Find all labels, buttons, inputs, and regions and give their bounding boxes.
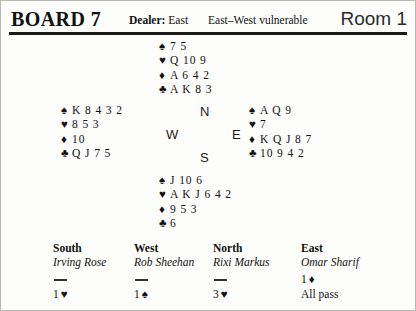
east-clubs: 10 9 4 2 bbox=[260, 147, 305, 159]
bridge-deal-diagram: BOARD 7 Dealer: East East–West vulnerabl… bbox=[0, 0, 416, 311]
west-clubs: Q J 7 5 bbox=[72, 147, 111, 159]
auction-bid: 1♦ bbox=[301, 272, 359, 287]
auction-bid: 3♥ bbox=[213, 287, 270, 302]
diamond-icon: ♦ bbox=[309, 272, 315, 287]
auction-seat-label: South bbox=[53, 241, 106, 255]
compass-rose: N W E S bbox=[166, 105, 244, 167]
auction-bid-list: 1♥ bbox=[53, 272, 106, 302]
auction-bid-placeholder bbox=[53, 272, 106, 287]
south-clubs: 6 bbox=[170, 217, 177, 229]
diamond-icon: ♦ bbox=[159, 68, 170, 82]
east-diamonds-row: ♦K Q J 8 7 bbox=[249, 132, 312, 146]
auction-player-name: Rixi Markus bbox=[213, 255, 270, 270]
hand-south: ♠J 10 6 ♥A K J 6 4 2 ♦9 5 3 ♣6 bbox=[159, 173, 232, 231]
diamond-icon: ♦ bbox=[159, 202, 170, 216]
auction-player-name: Irving Rose bbox=[53, 255, 106, 270]
deal-header: BOARD 7 Dealer: East East–West vulnerabl… bbox=[1, 7, 415, 31]
auction-seat-label: West bbox=[134, 241, 194, 255]
auction-bid: 1♠ bbox=[134, 287, 194, 302]
vulnerability-text: East–West vulnerable bbox=[208, 13, 308, 27]
east-clubs-row: ♣10 9 4 2 bbox=[249, 146, 312, 160]
auction-column-south: South Irving Rose 1♥ bbox=[53, 241, 106, 302]
east-spades: A Q 9 bbox=[260, 104, 292, 116]
north-clubs-row: ♣A K 8 3 bbox=[159, 82, 212, 96]
south-spades: J 10 6 bbox=[170, 174, 203, 186]
diamond-icon: ♦ bbox=[61, 132, 72, 146]
west-spades-row: ♠K 8 4 3 2 bbox=[61, 103, 123, 117]
compass-south-label: S bbox=[200, 151, 209, 165]
west-clubs-row: ♣Q J 7 5 bbox=[61, 146, 123, 160]
hand-east: ♠A Q 9 ♥7 ♦K Q J 8 7 ♣10 9 4 2 bbox=[249, 103, 312, 161]
auction-table: South Irving Rose 1♥ West Rob Sheehan 1♠… bbox=[1, 241, 415, 309]
heart-icon: ♥ bbox=[61, 117, 72, 131]
auction-bid: 1♥ bbox=[53, 287, 106, 302]
auction-column-north: North Rixi Markus 3♥ bbox=[213, 241, 270, 302]
auction-bid-list: 1♠ bbox=[134, 272, 194, 302]
bid-level: 3 bbox=[213, 288, 219, 300]
club-icon: ♣ bbox=[249, 146, 260, 160]
west-hearts-row: ♥8 5 3 bbox=[61, 117, 123, 131]
bid-level: 1 bbox=[53, 288, 59, 300]
south-hearts: A K J 6 4 2 bbox=[170, 188, 232, 200]
hand-diagram: ♠7 5 ♥Q 10 9 ♦A 6 4 2 ♣A K 8 3 ♠K 8 4 3 … bbox=[1, 35, 415, 237]
auction-player-name: Omar Sharif bbox=[301, 255, 359, 270]
auction-seat-label: North bbox=[213, 241, 270, 255]
board-title: BOARD 7 bbox=[11, 8, 101, 30]
north-diamonds-row: ♦A 6 4 2 bbox=[159, 68, 212, 82]
west-spades: K 8 4 3 2 bbox=[72, 104, 123, 116]
auction-bid-placeholder bbox=[134, 272, 194, 287]
diamond-icon: ♦ bbox=[249, 132, 260, 146]
dealer-info: Dealer: East bbox=[129, 13, 188, 27]
north-spades-row: ♠7 5 bbox=[159, 39, 212, 53]
heart-icon: ♥ bbox=[61, 287, 68, 302]
bid-level: 1 bbox=[134, 288, 140, 300]
west-diamonds: 10 bbox=[72, 133, 85, 145]
dealer-label: Dealer: bbox=[129, 14, 165, 26]
hand-north: ♠7 5 ♥Q 10 9 ♦A 6 4 2 ♣A K 8 3 bbox=[159, 39, 212, 97]
club-icon: ♣ bbox=[159, 216, 170, 230]
spade-icon: ♠ bbox=[249, 103, 260, 117]
hand-west: ♠K 8 4 3 2 ♥8 5 3 ♦10 ♣Q J 7 5 bbox=[61, 103, 123, 161]
compass-north-label: N bbox=[200, 105, 209, 119]
auction-all-pass: All pass bbox=[301, 287, 359, 302]
south-spades-row: ♠J 10 6 bbox=[159, 173, 232, 187]
south-hearts-row: ♥A K J 6 4 2 bbox=[159, 187, 232, 201]
heart-icon: ♥ bbox=[159, 53, 170, 67]
east-hearts-row: ♥7 bbox=[249, 117, 312, 131]
spade-icon: ♠ bbox=[142, 287, 148, 302]
dealer-value: East bbox=[168, 14, 188, 26]
club-icon: ♣ bbox=[61, 146, 72, 160]
auction-player-name: Rob Sheehan bbox=[134, 255, 194, 270]
auction-column-east: East Omar Sharif 1♦ All pass bbox=[301, 241, 359, 302]
north-diamonds: A 6 4 2 bbox=[170, 69, 210, 81]
west-diamonds-row: ♦10 bbox=[61, 132, 123, 146]
north-spades: 7 5 bbox=[170, 40, 187, 52]
spade-icon: ♠ bbox=[159, 39, 170, 53]
room-label: Room 1 bbox=[340, 7, 407, 31]
south-clubs-row: ♣6 bbox=[159, 216, 232, 230]
north-clubs: A K 8 3 bbox=[170, 83, 212, 95]
auction-bid-list: 3♥ bbox=[213, 272, 270, 302]
north-hearts: Q 10 9 bbox=[170, 54, 207, 66]
bid-level: 1 bbox=[301, 273, 307, 285]
heart-icon: ♥ bbox=[249, 117, 260, 131]
east-spades-row: ♠A Q 9 bbox=[249, 103, 312, 117]
compass-east-label: E bbox=[232, 128, 241, 142]
auction-column-west: West Rob Sheehan 1♠ bbox=[134, 241, 194, 302]
heart-icon: ♥ bbox=[221, 287, 228, 302]
auction-bid-placeholder bbox=[213, 272, 270, 287]
spade-icon: ♠ bbox=[159, 173, 170, 187]
spade-icon: ♠ bbox=[61, 103, 72, 117]
auction-seat-label: East bbox=[301, 241, 359, 255]
south-diamonds-row: ♦9 5 3 bbox=[159, 202, 232, 216]
east-diamonds: K Q J 8 7 bbox=[260, 133, 312, 145]
compass-west-label: W bbox=[166, 128, 178, 142]
east-hearts: 7 bbox=[260, 118, 267, 130]
club-icon: ♣ bbox=[159, 82, 170, 96]
auction-bid-list: 1♦ All pass bbox=[301, 272, 359, 302]
west-hearts: 8 5 3 bbox=[72, 118, 100, 130]
south-diamonds: 9 5 3 bbox=[170, 203, 198, 215]
north-hearts-row: ♥Q 10 9 bbox=[159, 53, 212, 67]
heart-icon: ♥ bbox=[159, 187, 170, 201]
